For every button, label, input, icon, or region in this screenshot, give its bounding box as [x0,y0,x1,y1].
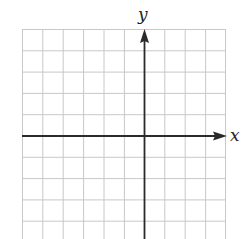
y-axis [140,29,149,239]
x-axis-label: x [230,125,240,145]
y-axis-arrow-icon [140,29,149,43]
x-axis-arrow-icon [213,132,227,141]
y-axis-label: y [137,4,148,24]
coordinate-plane: x y [0,0,244,239]
grid [23,29,226,239]
